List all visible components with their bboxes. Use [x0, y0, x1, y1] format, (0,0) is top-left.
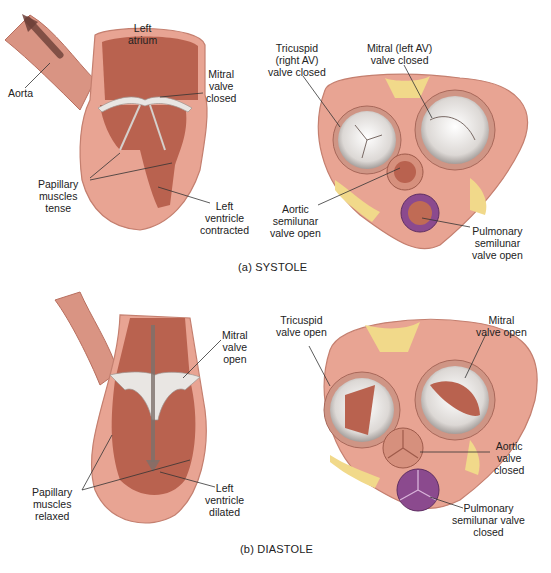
label-papillary-muscles-tense: Papillary muscles tense	[38, 178, 78, 214]
label-aorta: Aorta	[8, 87, 33, 99]
caption-systole: (a) SYSTOLE	[238, 261, 307, 273]
label-mitral-valve-open-cross: Mitral valve open	[476, 314, 527, 338]
label-left-ventricle-dilated: Left ventricle dilated	[205, 482, 244, 518]
diastole-cross-section	[324, 319, 537, 511]
label-aortic-valve-closed: Aortic valve closed	[494, 440, 524, 476]
label-pulmonary-semilunar-valve-open: Pulmonary semilunar valve open	[472, 225, 523, 261]
heart-valves-illustration	[0, 0, 551, 573]
label-mitral-left-av-valve-closed: Mitral (left AV) valve closed	[367, 42, 432, 66]
label-aortic-semilunar-valve-open: Aortic semilunar valve open	[270, 203, 321, 239]
label-tricuspid-valve-closed: Tricuspid (right AV) valve closed	[268, 42, 326, 78]
label-papillary-muscles-relaxed: Papillary muscles relaxed	[32, 486, 72, 522]
diastole-long-section	[55, 292, 206, 523]
label-tricuspid-valve-open: Tricuspid valve open	[276, 314, 327, 338]
caption-diastole: (b) DIASTOLE	[240, 543, 313, 555]
label-mitral-valve-closed: Mitral valve closed	[206, 68, 236, 104]
systole-long-section	[5, 14, 207, 230]
label-left-atrium: Left atrium	[128, 22, 157, 46]
label-mitral-valve-open: Mitral valve open	[222, 329, 248, 365]
label-pulmonary-semilunar-valve-closed: Pulmonary semilunar valve closed	[452, 502, 525, 538]
label-left-ventricle-contracted: Left ventricle contracted	[200, 200, 249, 236]
